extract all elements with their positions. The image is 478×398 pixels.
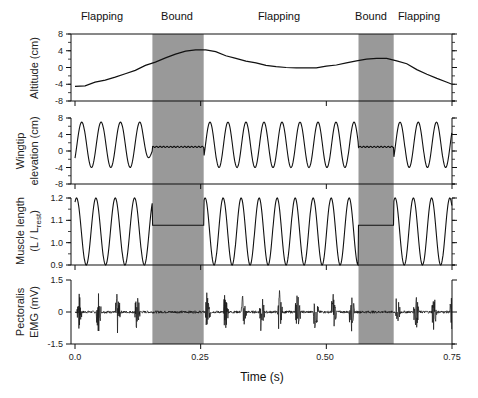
y-tick-label: -1.5 xyxy=(47,339,63,349)
x-tick-label-025: 0.25 xyxy=(191,352,209,362)
bound-region-2 xyxy=(359,34,394,344)
y-tick-label: 1.5 xyxy=(50,275,63,285)
muscle-ylabel-line2: (L / Lrest) xyxy=(28,210,43,252)
y-tick-label: 0.9 xyxy=(50,260,63,270)
y-tick-label: 1.0 xyxy=(50,238,63,248)
y-tick-label: -4 xyxy=(55,79,63,89)
y-tick-label: -8 xyxy=(55,179,63,189)
wingtip-trace xyxy=(75,122,452,167)
phase-label-flapping-1: Flapping xyxy=(81,10,123,22)
y-tick-label: 1.1 xyxy=(50,215,63,225)
x-axis-title: Time (s) xyxy=(240,370,284,384)
phase-label-bound-1: Bound xyxy=(161,10,193,22)
altitude-trace xyxy=(75,50,452,86)
y-tick-label: -8 xyxy=(55,96,63,106)
phase-label-flapping-3: Flapping xyxy=(398,10,440,22)
y-tick-label: 0 xyxy=(58,146,63,156)
emg-trace xyxy=(75,291,452,334)
bound-region-1 xyxy=(152,34,203,344)
phase-label-bound-2: Bound xyxy=(355,10,387,22)
y-tick-label: 4 xyxy=(58,130,63,140)
bound-shaded-regions xyxy=(152,34,393,344)
phase-label-flapping-2: Flapping xyxy=(258,10,300,22)
data-traces xyxy=(75,50,452,333)
y-tick-label: 0 xyxy=(58,63,63,73)
y-tick-label: -4 xyxy=(55,163,63,173)
muscle-length-trace xyxy=(75,198,452,265)
y-tick-label: 1.2 xyxy=(50,193,63,203)
x-tick-label-075: 0.75 xyxy=(443,352,461,362)
y-tick-label: 8 xyxy=(58,113,63,123)
x-tick-label-050: 0.50 xyxy=(316,352,334,362)
y-tick-label: 8 xyxy=(58,29,63,39)
x-tick-label-0: 0.0 xyxy=(69,352,82,362)
y-tick-label: 0 xyxy=(58,307,63,317)
muscle-ylabel-line1: Muscle length xyxy=(14,197,26,265)
y-tick-label: 4 xyxy=(58,46,63,56)
emg-ylabel-line2: EMG (mV) xyxy=(28,286,40,338)
figure: Flapping Bound Flapping Bound Flapping 8… xyxy=(0,0,478,398)
wingtip-ylabel-line2: elevation (cm) xyxy=(28,116,40,185)
panel-axes: 840-4-8840-4-81.21.11.00.91.50-1.5 xyxy=(47,29,457,349)
wingtip-ylabel-line1: Wingtip xyxy=(14,133,26,170)
altitude-ylabel: Altitude (cm) xyxy=(28,37,40,99)
emg-ylabel-line1: Pectoralis xyxy=(14,287,26,336)
